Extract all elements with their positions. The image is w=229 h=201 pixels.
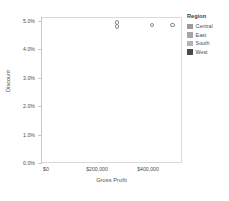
legend-title: Region [187,13,229,19]
data-point-east[interactable] [115,24,120,29]
y-tick-label-2: 2.0% [5,103,35,109]
legend-label-central: Central [196,23,213,29]
legend-label-west: West [196,49,208,55]
legend-label-east: East [196,32,207,38]
y-tick-mark-5 [38,21,41,22]
legend-swatch-south [187,41,193,47]
legend-label-south: South [196,40,210,46]
legend-item-south[interactable]: South [187,39,229,48]
x-tick-label-0: $0 [24,166,68,172]
y-tick-mark-2 [38,106,41,107]
legend-swatch-west [187,49,193,55]
y-tick-label-4: 4.0% [5,46,35,52]
y-tick-mark-1 [38,135,41,136]
x-axis-title: Gross Profit [41,177,182,183]
x-tick-label-2: $400,000 [126,166,170,172]
y-axis-title: Discount [5,60,11,102]
y-tick-label-1: 1.0% [5,132,35,138]
y-axis-line [41,17,42,164]
legend: Region Central East South West [187,13,229,56]
y-tick-mark-3 [38,78,41,79]
legend-item-central[interactable]: Central [187,22,229,31]
y-tick-mark-0 [38,163,41,164]
x-tick-label-1: $200,000 [75,166,119,172]
data-point-west[interactable] [170,23,175,28]
legend-item-west[interactable]: West [187,48,229,57]
legend-swatch-east [187,32,193,38]
y-tick-label-5: 5.0% [5,18,35,24]
legend-swatch-central [187,24,193,30]
scatter-chart: 0.0% 1.0% 2.0% 3.0% 4.0% 5.0% Discount $… [0,0,229,201]
legend-item-east[interactable]: East [187,31,229,40]
plot-area [41,17,182,163]
y-tick-mark-4 [38,49,41,50]
